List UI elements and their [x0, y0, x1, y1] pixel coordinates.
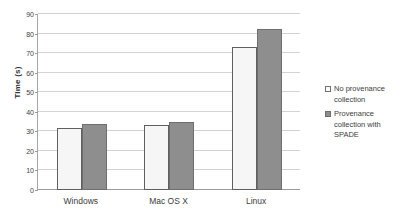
bar-mac-os-x-series-0 [144, 125, 169, 190]
y-tick-label-40: 40 [26, 108, 34, 115]
bar-windows-series-1 [82, 124, 107, 190]
y-tick-label-20: 20 [26, 147, 34, 154]
bar-group-mac-os-x [126, 14, 214, 190]
plot-area: 0102030405060708090 [37, 14, 300, 190]
bar-linux-series-1 [257, 29, 282, 190]
bar-group-windows [38, 14, 126, 190]
bar-linux-series-0 [232, 47, 257, 190]
y-tick-label-0: 0 [30, 187, 34, 194]
bar-chart: Time (s) 0102030405060708090 WindowsMac … [0, 0, 394, 218]
y-tick-mark-0 [35, 190, 38, 191]
legend: No provenance collectionProvenance colle… [325, 84, 394, 145]
y-tick-label-50: 50 [26, 89, 34, 96]
y-axis-title: Time (s) [13, 53, 22, 113]
y-tick-label-70: 70 [26, 50, 34, 57]
bars-layer [38, 14, 300, 190]
x-axis-label-mac-os-x: Mac OS X [149, 196, 188, 206]
y-tick-label-10: 10 [26, 167, 34, 174]
legend-swatch-icon-1 [325, 111, 331, 117]
y-tick-label-30: 30 [26, 128, 34, 135]
x-axis-label-linux: Linux [246, 196, 266, 206]
legend-entry-0[interactable]: No provenance collection [325, 84, 394, 105]
bar-group-linux [213, 14, 301, 190]
y-tick-label-80: 80 [26, 30, 34, 37]
x-axis-label-windows: Windows [64, 196, 98, 206]
legend-label-0: No provenance collection [325, 84, 394, 105]
bar-windows-series-0 [57, 128, 82, 190]
legend-swatch-icon-0 [325, 86, 331, 92]
bar-mac-os-x-series-1 [169, 122, 194, 190]
legend-entry-1[interactable]: Provenance collection with SPADE [325, 109, 394, 141]
legend-label-1: Provenance collection with SPADE [325, 109, 394, 141]
y-tick-label-90: 90 [26, 11, 34, 18]
y-tick-label-60: 60 [26, 69, 34, 76]
